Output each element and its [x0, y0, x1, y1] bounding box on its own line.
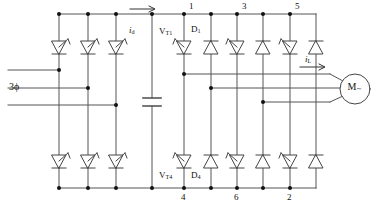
node-dot — [57, 68, 61, 72]
three-phase-source-label: 3ϕ — [9, 82, 19, 92]
dc-current-arrow — [130, 6, 155, 12]
node-dot — [57, 12, 61, 16]
load-current-arrow — [300, 64, 325, 70]
diode-d1-label: D1 — [191, 25, 201, 34]
node-label-3: 3 — [242, 2, 247, 11]
node-label-2: 2 — [287, 193, 292, 202]
inverter-diode-upper-2 — [256, 41, 270, 54]
node-dot — [261, 100, 265, 104]
inverter-diode-upper-1 — [204, 41, 218, 54]
thyristor-vt4-label: VT4 — [159, 171, 172, 180]
motor-lead-c — [330, 96, 343, 102]
node-dot — [114, 103, 118, 107]
inverter-diode-lower-1 — [204, 155, 218, 168]
node-label-5: 5 — [295, 2, 300, 11]
node-dot — [57, 186, 61, 190]
motor-lead-a — [330, 74, 343, 81]
node-dot — [182, 72, 186, 76]
node-dot — [86, 12, 90, 16]
motor-label: M∼ — [345, 81, 365, 93]
node-dot — [182, 12, 186, 16]
node-dot — [209, 86, 213, 90]
node-label-1: 1 — [189, 2, 194, 11]
node-dot — [288, 186, 292, 190]
node-dot — [209, 12, 213, 16]
node-dot — [150, 186, 154, 190]
inverter-diode-upper-3 — [309, 41, 323, 54]
node-dot — [150, 12, 154, 16]
node-dot — [114, 186, 118, 190]
node-dot — [114, 12, 118, 16]
dc-current-label: id — [129, 26, 135, 35]
load-current-label: iL — [305, 55, 311, 64]
node-dot — [209, 186, 213, 190]
junction-dots — [57, 12, 292, 190]
node-dot — [182, 186, 186, 190]
node-dot — [86, 186, 90, 190]
diode-d4-label: D4 — [191, 171, 201, 180]
thyristor-vt1-label: VT1 — [159, 27, 172, 36]
node-dot — [86, 86, 90, 90]
node-dot — [288, 12, 292, 16]
node-label-6: 6 — [234, 193, 239, 202]
circuit-diagram-canvas: 3ϕ id iL VT1 D1 VT4 D4 1 3 5 4 6 2 M∼ — [0, 0, 385, 214]
node-dot — [235, 186, 239, 190]
node-dot — [261, 12, 265, 16]
inverter-diode-lower-2 — [256, 155, 270, 168]
inverter-diode-lower-3 — [309, 155, 323, 168]
node-dot — [261, 186, 265, 190]
node-label-4: 4 — [181, 193, 186, 202]
node-dot — [235, 12, 239, 16]
